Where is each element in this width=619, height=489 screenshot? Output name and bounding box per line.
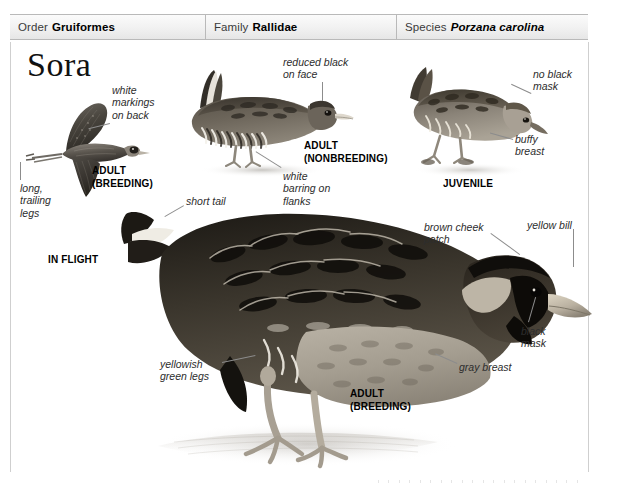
- label-gray-breast: gray breast: [459, 361, 512, 373]
- caption-adult-breeding: ADULT(BREEDING): [350, 388, 411, 413]
- species-rank-label: Species: [405, 21, 447, 33]
- label-reduced-black-on-face: reduced black on face: [283, 56, 348, 81]
- family-name: Rallidae: [252, 21, 297, 33]
- field-guide-page: Order Gruiformes Family Rallidae Species…: [0, 0, 619, 489]
- page-rule-left: [10, 42, 11, 472]
- plate-caption-in-flight: IN FLIGHT: [48, 254, 98, 267]
- caption-line1: ADULT: [92, 165, 126, 176]
- label-yellowish-green-legs: yellowish green legs: [160, 358, 209, 383]
- label-brown-cheek-patch: brown cheek patch: [424, 221, 484, 246]
- label-white-markings-on-back: white markings on back: [112, 84, 155, 121]
- caption-line2: (BREEDING): [92, 178, 153, 189]
- leader-line-legs-flight: [20, 162, 21, 180]
- family-rank-label: Family: [214, 21, 248, 33]
- leader-line-face: [322, 82, 323, 101]
- caption-adult-nonbreeding: ADULT(NONBREEDING): [304, 140, 388, 165]
- page-title: Sora: [27, 48, 91, 82]
- label-long-trailing-legs: long, trailing legs: [20, 182, 51, 219]
- caption-line1: ADULT: [304, 140, 338, 151]
- plate-caption-juvenile: JUVENILE: [443, 178, 493, 191]
- taxonomy-cell-order: Order Gruiformes: [10, 15, 205, 39]
- label-black-mask: black mask: [521, 325, 546, 350]
- order-rank-label: Order: [18, 21, 48, 33]
- label-yellow-bill: yellow bill: [527, 219, 572, 231]
- caption-in-flight-adult: ADULT(BREEDING): [92, 165, 153, 190]
- leader-line-yellow-bill: [573, 229, 574, 267]
- taxonomy-bar: Order Gruiformes Family Rallidae Species…: [10, 14, 588, 40]
- caption-line2: (BREEDING): [350, 401, 411, 412]
- order-name: Gruiformes: [52, 21, 115, 33]
- taxonomy-cell-family: Family Rallidae: [205, 15, 396, 39]
- caption-line1: ADULT: [350, 388, 384, 399]
- label-buffy-breast: buffy breast: [515, 133, 544, 158]
- taxonomy-cell-species: Species Porzana carolina: [396, 15, 588, 39]
- label-no-black-mask: no black mask: [533, 68, 572, 93]
- scan-artifact-dots: [378, 478, 578, 484]
- label-short-tail: short tail: [186, 195, 226, 207]
- caption-line2: (NONBREEDING): [304, 153, 388, 164]
- bird-illustration-juvenile: [400, 58, 550, 182]
- species-name: Porzana carolina: [451, 21, 545, 33]
